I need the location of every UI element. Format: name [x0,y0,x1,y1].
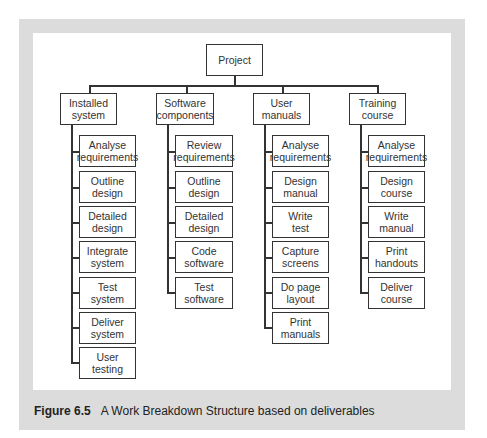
task-node: Design manual [272,171,329,203]
task-node: Print handouts [368,241,425,273]
branch-stub [89,85,91,93]
child-connector [71,222,79,224]
child-connector [71,327,79,329]
child-connector [167,187,175,189]
task-node: Review requirements [175,135,233,167]
branch-node-training-course: Training course [349,93,406,125]
task-node: Test software [175,277,233,309]
branch-node-user-manuals: User manuals [253,93,310,125]
branch-bus-line [89,85,378,87]
task-node: Analyse requirements [272,135,329,167]
child-connector [167,292,175,294]
child-connector [71,257,79,259]
task-node: User testing [79,347,136,379]
task-node: Code software [175,241,233,273]
task-node: Do page layout [272,277,329,309]
branch-node-installed-system: Installed system [60,93,117,125]
task-node: Deliver system [79,312,136,344]
task-node: Deliver course [368,277,425,309]
task-node: Write manual [368,206,425,238]
task-node: Design course [368,171,425,203]
child-connector [360,257,368,259]
figure-label: Figure 6.5 [34,404,91,418]
task-node: Analyse requirements [79,135,136,167]
branch-stub [377,85,379,93]
task-node: Outline design [79,171,136,203]
child-connector [264,292,272,294]
branch-spine [264,125,266,328]
root-connector [234,76,236,85]
child-connector [264,222,272,224]
child-connector [167,257,175,259]
task-node: Detailed design [79,206,136,238]
branch-stub [282,85,284,93]
child-connector [167,222,175,224]
child-connector [360,292,368,294]
task-node: Test system [79,277,136,309]
task-node: Capture screens [272,241,329,273]
child-connector [71,362,79,364]
task-node: Integrate system [79,241,136,273]
root-node-project: Project [206,44,263,76]
child-connector [264,187,272,189]
child-connector [71,187,79,189]
child-connector [360,187,368,189]
task-node: Detailed design [175,206,233,238]
caption-text: A Work Breakdown Structure based on deli… [101,404,375,418]
child-connector [264,257,272,259]
child-connector [71,292,79,294]
task-node: Write test [272,206,329,238]
task-node: Outline design [175,171,233,203]
figure-caption: Figure 6.5A Work Breakdown Structure bas… [34,404,375,418]
child-connector [264,327,272,329]
branch-node-software-components: Software components [156,93,214,125]
task-node: Analyse requirements [368,135,425,167]
child-connector [360,222,368,224]
branch-stub [186,85,188,93]
task-node: Print manuals [272,312,329,344]
